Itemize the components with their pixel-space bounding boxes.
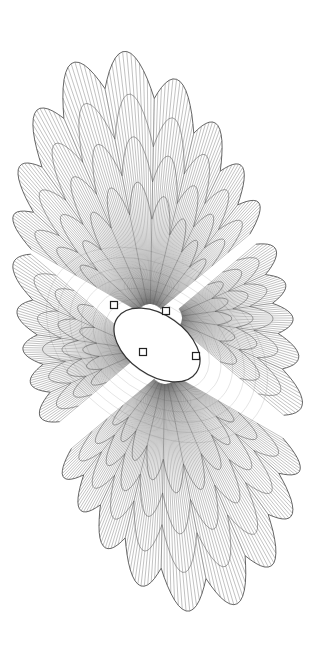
node-marker — [163, 308, 170, 315]
wireframe-figure — [0, 0, 315, 664]
node-marker — [193, 353, 200, 360]
node-marker — [111, 302, 118, 309]
spiral-fan-drawing — [0, 0, 315, 664]
node-marker — [140, 349, 147, 356]
